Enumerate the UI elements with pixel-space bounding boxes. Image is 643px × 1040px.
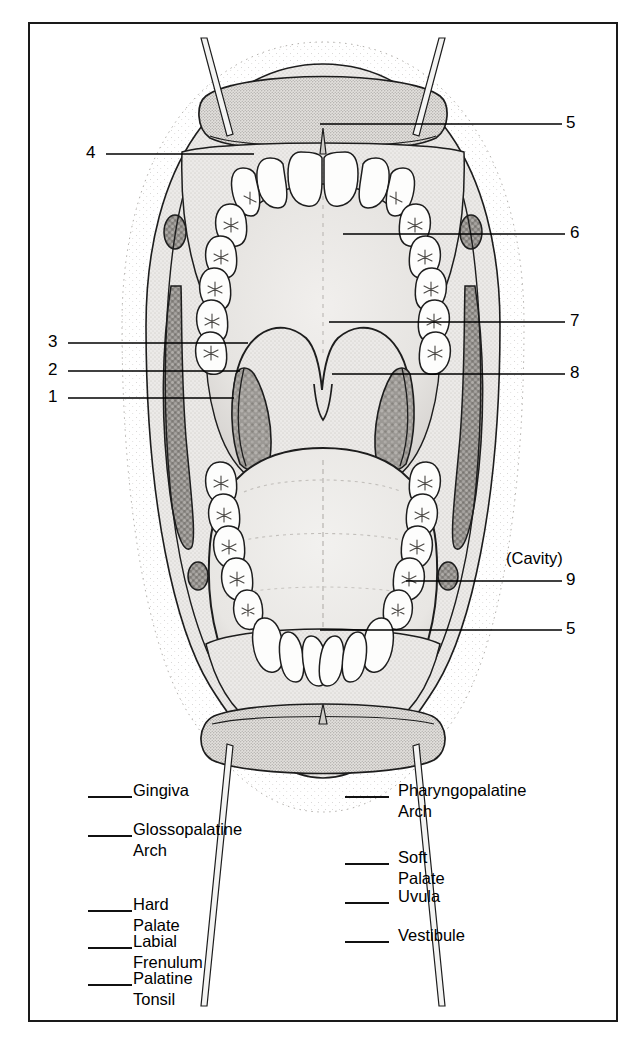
- legend-blank-line[interactable]: [345, 863, 389, 865]
- legend-blank-line[interactable]: [88, 835, 132, 837]
- callout-number-4: 4: [86, 144, 95, 161]
- legend-blank-line[interactable]: [345, 796, 389, 798]
- callout-leader-lines: [30, 24, 616, 1020]
- legend-label: Uvula: [398, 886, 440, 907]
- legend-blank-line[interactable]: [88, 984, 132, 986]
- callout-number-7: 7: [570, 312, 579, 329]
- callout-number-5-top: 5: [566, 114, 575, 131]
- callout-number-6: 6: [570, 224, 579, 241]
- legend-label: Palatine Tonsil: [133, 968, 193, 1010]
- legend-blank-line[interactable]: [345, 941, 389, 943]
- callout-number-8: 8: [570, 364, 579, 381]
- legend-label: Hard Palate: [133, 894, 180, 936]
- callout-number-1: 1: [48, 388, 57, 405]
- legend-blank-line[interactable]: [88, 947, 132, 949]
- legend-label: Pharyngopalatine Arch: [398, 780, 526, 822]
- legend-label: Gingiva: [133, 780, 189, 801]
- callout-number-2: 2: [48, 361, 57, 378]
- legend-label: Vestibule: [398, 925, 465, 946]
- figure-page: 4 3 2 1 5 6 7 8 9 5 (Cavity) Gingiva Glo…: [0, 0, 643, 1040]
- figure-frame: [28, 22, 618, 1022]
- legend-blank-line[interactable]: [88, 796, 132, 798]
- legend-blank-line[interactable]: [345, 902, 389, 904]
- callout-number-3: 3: [48, 333, 57, 350]
- leader-line-group: [68, 124, 565, 630]
- callout-number-9: 9: [566, 571, 575, 588]
- legend-blank-line[interactable]: [88, 910, 132, 912]
- cavity-annotation: (Cavity): [506, 550, 563, 567]
- legend-label: Labial Frenulum: [133, 931, 203, 973]
- legend-label: Glossopalatine Arch: [133, 819, 242, 861]
- callout-number-5-bottom: 5: [566, 620, 575, 637]
- legend-label: Soft Palate: [398, 847, 445, 889]
